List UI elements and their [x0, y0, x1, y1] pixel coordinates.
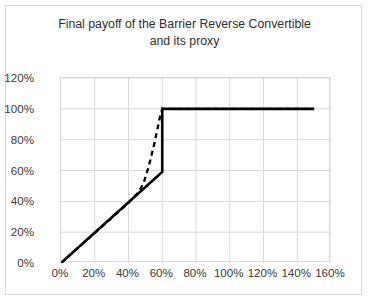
y-axis-tick-label: 60%	[0, 163, 34, 176]
proxy-payoff-line	[61, 109, 314, 263]
y-axis-tick-label: 0%	[0, 256, 34, 269]
y-axis-tick-label: 20%	[0, 225, 34, 238]
y-axis-tick-label: 100%	[0, 101, 34, 114]
y-axis-tick-label: 120%	[0, 71, 34, 84]
chart-title: Final payoff of the Barrier Reverse Conv…	[22, 16, 347, 50]
chart-figure: Final payoff of the Barrier Reverse Conv…	[0, 0, 369, 301]
plot-area	[60, 77, 330, 262]
x-axis-tick-label: 160%	[308, 266, 352, 279]
brc-payoff-line	[61, 109, 314, 263]
series-lines	[61, 78, 331, 263]
y-axis-tick-label: 80%	[0, 132, 34, 145]
chart-title-line-1: Final payoff of the Barrier Reverse Conv…	[22, 16, 347, 33]
x-axis: 0%20%40%60%80%100%120%140%160%	[60, 266, 330, 286]
y-axis-tick-label: 40%	[0, 194, 34, 207]
chart-title-line-2: and its proxy	[22, 33, 347, 50]
